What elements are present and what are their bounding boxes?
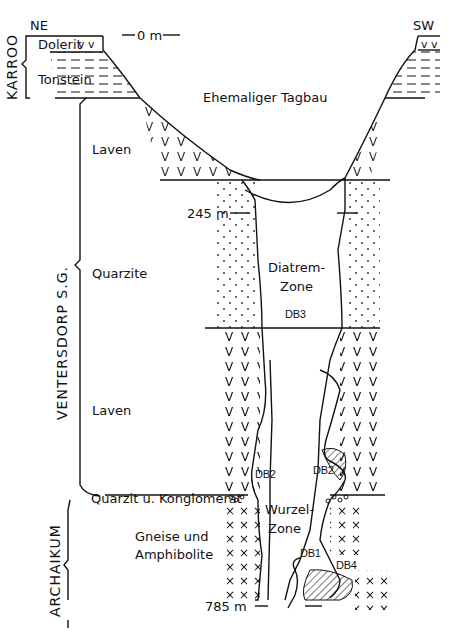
unit-gneise-label-1: Gneise und — [135, 530, 209, 543]
orientation-ne-label: NE — [30, 19, 48, 32]
orientation-sw-label: SW — [413, 19, 434, 32]
diatrem-zone-label-2: Zone — [280, 280, 313, 293]
unit-laven-upper-label: Laven — [92, 143, 131, 156]
wurzel-zone-label-2: Zone — [268, 522, 301, 535]
unit-quarzit-konglomerat-label: Quarzit u. Konglomerat — [91, 492, 242, 505]
dike-db4-label: DB4 — [336, 560, 357, 571]
unit-laven-lower-label: Laven — [92, 404, 131, 417]
depth-245m-label: 245 m — [187, 207, 229, 220]
dike-db2-right-label: DB2 — [313, 465, 334, 476]
dike-db2-left-label: DB2 — [255, 469, 276, 480]
group-ventersdorp-label: VENTERSDORP S.G. — [54, 266, 70, 420]
dike-db1-label: DB1 — [300, 548, 321, 559]
group-archaikum-label: ARCHAIKUM — [47, 524, 63, 617]
surface-label: Ehemaliger Tagbau — [203, 91, 328, 104]
depth-785m-label: 785 m — [205, 600, 247, 613]
dike-db3-label: DB3 — [285, 309, 306, 320]
unit-dolerit-label: Dolerit — [38, 38, 82, 51]
unit-quarzite-label: Quarzite — [92, 267, 147, 280]
svg-text:v v: v v — [421, 38, 438, 51]
unit-tonstein-label: Tonstein — [38, 73, 92, 86]
depth-0m-label: 0 m — [137, 29, 162, 42]
geological-cross-section: V V × — [0, 0, 453, 640]
unit-gneise-label-2: Amphibolite — [135, 548, 213, 561]
group-karroo-label: KARROO — [4, 34, 20, 100]
wurzel-zone-label-1: Wurzel- — [265, 503, 314, 516]
diatrem-zone-label-1: Diatrem- — [268, 261, 325, 274]
